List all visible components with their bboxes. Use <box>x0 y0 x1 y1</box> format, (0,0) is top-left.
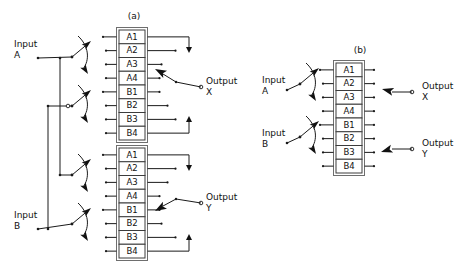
cell-input-terminal <box>322 96 324 98</box>
cell-output-terminal <box>373 165 375 167</box>
cell-output-terminal <box>373 83 375 85</box>
stack-a-lower-cell-a1: A1 <box>119 148 145 162</box>
cell-input-terminal <box>322 83 324 85</box>
input-b-bus-corner <box>47 105 50 108</box>
panel-a-switch-a3 <box>71 154 91 192</box>
cell-input-terminal <box>102 209 104 211</box>
cell-label-a1: A1 <box>343 65 354 75</box>
stack-a-lower-cell-b2: B2 <box>119 217 145 231</box>
cell-label-a4: A4 <box>126 73 137 83</box>
stack-a-upper-cell-a4: A4 <box>119 71 145 85</box>
cell-input-terminal <box>322 138 324 140</box>
cell-input-terminal <box>105 77 107 79</box>
input-a-bus-corner <box>59 174 62 177</box>
panel-b-caption: (b) <box>354 45 367 55</box>
panel-b-switch-b1 <box>299 63 319 101</box>
cell-output-terminal <box>373 124 375 126</box>
input-a-label-line2: A <box>14 50 21 60</box>
cell-input-terminal <box>105 132 107 134</box>
output-y-arrow <box>381 145 393 153</box>
input-a-feed <box>287 84 300 90</box>
figure-root: (a)A1A2A3A4B1B2B3B4A1A2A3A4B1B2B3B4Outpu… <box>0 0 468 269</box>
cell-label-a3: A3 <box>126 177 137 187</box>
cell-output-terminal <box>373 138 375 140</box>
cell-input-terminal <box>322 151 324 153</box>
panel-a-switch-a2-throw-arc <box>78 85 87 118</box>
cell-input-terminal <box>105 105 107 107</box>
cell-a1-feedback-tip-lower <box>186 165 192 171</box>
cell-input-terminal <box>105 236 107 238</box>
panel-b-output-x: OutputX <box>382 81 454 102</box>
panel-a-left-wires <box>102 36 117 252</box>
cell-label-b4: B4 <box>126 246 137 256</box>
stack-b-cell-b4: B4 <box>336 159 362 173</box>
panel-a-output-y: OutputY <box>155 192 238 213</box>
input-a-label-line1: Input <box>262 75 286 85</box>
output-x-label-line2: X <box>206 87 212 97</box>
cell-output-terminal <box>158 195 160 197</box>
cell-a1-feedback-wire <box>148 37 190 47</box>
stack-b-cell-b1: B1 <box>336 118 362 132</box>
input-b-label-line2: B <box>14 221 20 231</box>
cell-label-b1: B1 <box>126 87 137 97</box>
stack-a-upper-cell-b4: B4 <box>119 126 145 140</box>
cell-b4-feedback-wire-lower <box>148 240 190 251</box>
input-a-bus-down <box>60 58 72 175</box>
cell-output-terminal <box>158 91 160 93</box>
stack-b-cell-a3: A3 <box>336 91 362 105</box>
stack-a-lower-cell-b3: B3 <box>119 231 145 245</box>
cell-label-b3: B3 <box>126 232 137 242</box>
cell-label-b3: B3 <box>126 114 137 124</box>
panel-b-right-wires <box>365 69 376 167</box>
cell-output-terminal <box>166 181 168 183</box>
cell-output-terminal <box>373 151 375 153</box>
panel-a-switch-a1 <box>71 36 91 74</box>
panel-a-output-x: OutputX <box>155 69 238 97</box>
panel-b-switch-b2-throw-arc <box>306 116 315 149</box>
cell-input-terminal <box>322 110 324 112</box>
cell-input-terminal <box>105 195 107 197</box>
cell-label-a4: A4 <box>126 191 137 201</box>
panel-a: (a)A1A2A3A4B1B2B3B4A1A2A3A4B1B2B3B4Outpu… <box>14 11 238 261</box>
panel-a-switch-a4 <box>71 203 91 241</box>
cell-label-b4: B4 <box>343 161 354 171</box>
output-x-arrow <box>155 69 167 78</box>
cell-input-terminal <box>319 124 321 126</box>
output-y-label-line1: Output <box>206 192 238 202</box>
cell-input-terminal <box>105 118 107 120</box>
input-b-feed <box>38 224 72 229</box>
cell-label-a3: A3 <box>343 92 354 102</box>
panel-a-switch-a3-throw-arc <box>78 154 87 187</box>
cell-input-terminal <box>105 250 107 252</box>
output-x-lead <box>176 82 201 87</box>
cell-label-a2: A2 <box>343 78 354 88</box>
cell-label-b4: B4 <box>126 128 137 138</box>
cell-input-terminal <box>319 69 321 71</box>
cell-output-terminal <box>373 110 375 112</box>
stack-a-upper-cell-a3: A3 <box>119 58 145 72</box>
input-a-label-line2: A <box>262 86 269 96</box>
stack-a-upper-cell-a1: A1 <box>119 30 145 44</box>
stack-a-lower: A1A2A3A4B1B2B3B4 <box>117 146 148 261</box>
input-b-bus-node <box>66 104 70 108</box>
input-b-label-line1: Input <box>14 210 38 220</box>
cell-label-a1: A1 <box>126 32 137 42</box>
stack-b-cell-a2: A2 <box>336 77 362 91</box>
cell-b4-feedback-tip <box>186 116 192 122</box>
stack-b-cell-a4: A4 <box>336 104 362 118</box>
input-a-feed <box>38 57 72 58</box>
output-x-lead2 <box>163 74 176 82</box>
panel-b-switch-b1-arrow-down <box>308 91 316 101</box>
cell-output-terminal <box>160 63 162 65</box>
panel-a-right-wires <box>148 37 193 251</box>
output-y-label-line1: Output <box>422 138 454 148</box>
output-y-label-line2: Y <box>205 203 212 213</box>
cell-label-b2: B2 <box>343 133 354 143</box>
panel-a-switch-a3-arrow-down <box>80 182 88 192</box>
cell-output-terminal <box>174 236 176 238</box>
panel-b: (b)A1A2A3A4B1B2B3B4InputAInputBOutputXOu… <box>262 45 454 176</box>
cell-label-b1: B1 <box>343 120 354 130</box>
panel-b-output-y: OutputY <box>381 138 454 159</box>
cell-label-a2: A2 <box>126 163 137 173</box>
cell-input-terminal <box>105 168 107 170</box>
